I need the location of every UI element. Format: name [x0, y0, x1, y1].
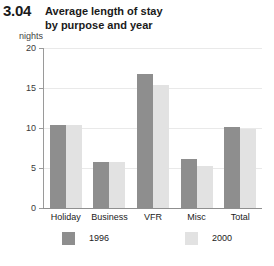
bar-group	[224, 48, 256, 208]
title-line-2: by purpose and year	[45, 19, 163, 33]
bar	[93, 162, 109, 208]
y-tick-label: 0	[10, 204, 36, 213]
figure-number: 3.04	[3, 4, 45, 18]
x-category-label: Misc	[175, 212, 219, 222]
figure-header: 3.04 Average length of stay by purpose a…	[0, 0, 274, 32]
x-category-label: Holiday	[44, 212, 88, 222]
bar	[224, 127, 240, 208]
y-tick-label: 15	[10, 84, 36, 93]
bar-group	[181, 48, 213, 208]
bar-group	[137, 48, 169, 208]
bar	[137, 74, 153, 208]
plot-area	[44, 48, 262, 208]
y-tick-label: 10	[10, 124, 36, 133]
x-category-label: VFR	[131, 212, 175, 222]
bars-layer	[44, 48, 262, 208]
bar-group	[50, 48, 82, 208]
legend-swatch	[62, 232, 75, 245]
chart-legend: 19962000	[0, 232, 274, 252]
x-axis-line	[43, 208, 262, 209]
y-axis-unit-label: nights	[19, 31, 43, 41]
bar	[153, 85, 169, 208]
y-tick-mark	[39, 168, 43, 169]
bar	[181, 159, 197, 208]
y-tick-mark	[39, 88, 43, 89]
bar	[66, 125, 82, 208]
bar	[109, 162, 125, 208]
legend-label: 2000	[212, 232, 232, 245]
bar-group	[93, 48, 125, 208]
bar	[50, 125, 66, 208]
page-title: Average length of stay by purpose and ye…	[45, 4, 163, 32]
chart-plot: 05101520 HolidayBusinessVFRMiscTotal	[0, 44, 274, 210]
legend-label: 1996	[89, 232, 109, 245]
legend-swatch	[185, 232, 198, 245]
y-tick-mark	[39, 128, 43, 129]
legend-item[interactable]: 1996	[62, 232, 109, 245]
bar	[197, 166, 213, 208]
title-line-1: Average length of stay	[45, 5, 163, 19]
x-category-label: Business	[88, 212, 132, 222]
bar	[240, 129, 256, 208]
y-tick-label: 20	[10, 44, 36, 53]
y-tick-mark	[39, 208, 43, 209]
y-tick-label: 5	[10, 164, 36, 173]
x-category-label: Total	[218, 212, 262, 222]
y-tick-mark	[39, 48, 43, 49]
legend-item[interactable]: 2000	[185, 232, 232, 245]
